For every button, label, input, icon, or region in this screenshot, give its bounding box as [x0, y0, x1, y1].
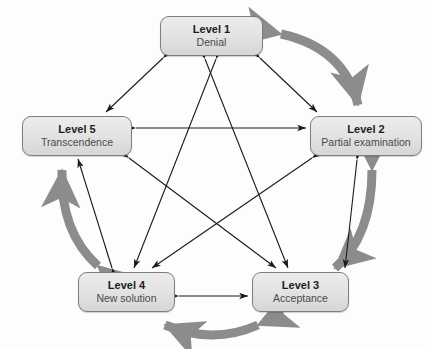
arc-level3-level4 [165, 325, 258, 335]
arc-level1-level2 [281, 34, 358, 105]
diagram-canvas: Level 1 Denial Level 2 Partial examinati… [0, 0, 430, 349]
arc-level4-level5 [62, 170, 98, 266]
node-level-2-subtitle: Partial examination [321, 136, 410, 149]
node-level-1-title: Level 1 [193, 23, 230, 36]
arrow-level1-level3 [205, 59, 288, 268]
node-level-3-title: Level 3 [282, 279, 319, 292]
arrow-level1-level4 [134, 59, 216, 268]
node-level-1-subtitle: Denial [197, 36, 227, 49]
node-level-3-subtitle: Acceptance [273, 292, 328, 305]
arrow-level1-level5 [106, 58, 163, 112]
node-level-5[interactable]: Level 5 Transcendence [22, 116, 132, 156]
node-level-5-subtitle: Transcendence [41, 136, 113, 149]
node-level-2-title: Level 2 [347, 123, 384, 136]
arc-level2-level3 [335, 170, 372, 268]
node-level-5-title: Level 5 [58, 123, 95, 136]
arrow-level2-level4 [152, 158, 312, 268]
node-level-3[interactable]: Level 3 Acceptance [252, 272, 349, 312]
node-level-1[interactable]: Level 1 Denial [160, 16, 263, 56]
node-level-4[interactable]: Level 4 New solution [78, 272, 175, 312]
node-level-4-subtitle: New solution [96, 292, 156, 305]
arrow-level5-level3 [129, 158, 276, 268]
arrow-level1-level2 [260, 58, 317, 112]
node-level-2[interactable]: Level 2 Partial examination [310, 116, 422, 156]
node-level-4-title: Level 4 [108, 279, 145, 292]
